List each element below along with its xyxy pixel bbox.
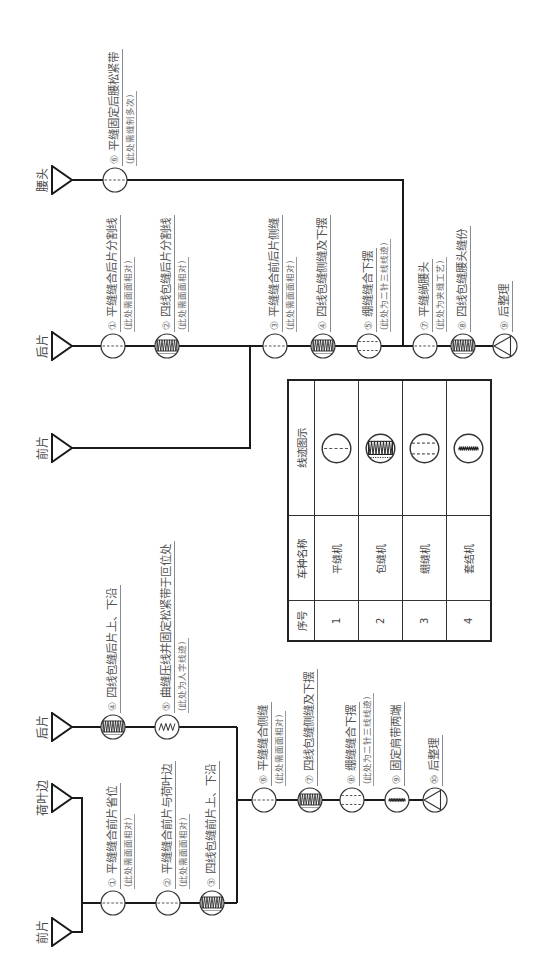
overlock-icon — [297, 787, 323, 813]
legend-header-row: 序号 车种名称 线迹图示 — [288, 380, 315, 641]
step-note: (此处为夹缝工艺) — [435, 257, 447, 332]
legend-stitch-cell — [315, 380, 359, 516]
step-text: 四线包缝腰头缝份 — [455, 229, 469, 317]
step-text: 后整理 — [427, 738, 441, 771]
legend-row: 4 套结机 — [447, 380, 492, 641]
step-title: ⑦四线包缝侧缝及下摆 — [302, 669, 318, 786]
step-number: ⑥ — [257, 775, 269, 784]
step-text: 平缝缝合前片省位 — [105, 786, 119, 874]
step-title: ⑥平缝固定后腰松紧带 — [107, 49, 123, 166]
overlock-icon — [199, 890, 225, 916]
step-note: (此处为人字线迹) — [177, 638, 189, 713]
step-title: ⑧绷缝缝合下摆 — [344, 702, 360, 786]
step-title: ⑨后整理 — [497, 281, 513, 332]
step-number: ④ — [316, 321, 328, 330]
step-title: ⑤曲缝压线并固定松紧带于叵位处 — [159, 541, 175, 713]
step-text: 四线包缝侧缝及下摆 — [315, 218, 329, 317]
overlock-icon — [365, 433, 396, 464]
step-title: ③四线包缝前片上、下沿 — [204, 761, 220, 889]
step-note: (此处为二针三线线迹) — [379, 239, 391, 332]
input-label-back-piece: 后片 — [35, 316, 51, 376]
step-label: ⑥平缝固定后腰松紧带 (此处需缝制多次) — [107, 49, 137, 166]
step-number: ⑨ — [390, 775, 402, 784]
finishing-icon — [422, 787, 448, 813]
step-number: ② — [160, 321, 172, 330]
step-note: (此处需面面相对) — [177, 257, 189, 332]
step-number: ④ — [106, 702, 118, 711]
step-title: ④四线包缝侧缝及下摆 — [315, 215, 331, 332]
step-number: ② — [161, 878, 173, 887]
step-text: 平缝固定后腰松紧带 — [107, 52, 121, 151]
bartack-icon — [453, 433, 484, 464]
coverstitch-icon — [339, 787, 365, 813]
step-title: ⑥平缝缝合侧缝 — [256, 702, 272, 786]
step-number: ⑧ — [456, 321, 468, 330]
step-number: ⑩ — [428, 775, 440, 784]
step-note: (此处需面面相对) — [123, 257, 135, 332]
step-label: ⑦平缝绱腰头 (此处为夹缝工艺) — [417, 257, 447, 332]
legend-header-machine: 车种名称 — [288, 516, 315, 601]
step-title: ⑩后整理 — [427, 735, 443, 786]
legend-row: 2 包缝机 — [359, 380, 403, 641]
step-label: ⑥平缝缝合侧缝 (此处需面面相对) — [256, 702, 286, 786]
step-number: ⑦ — [418, 321, 430, 330]
lockstitch-icon — [412, 333, 438, 359]
right-front-feed — [72, 346, 250, 448]
step-number: ① — [106, 321, 118, 330]
step-number: ① — [106, 878, 118, 887]
step-note: (此处需面面相对) — [123, 814, 135, 889]
lockstitch-icon — [321, 433, 352, 464]
step-label: ②四线包缝后片分割线 (此处需面面相对) — [159, 215, 189, 332]
input-label-waistband: 腰头 — [35, 150, 51, 210]
step-note: (此处需面面相对) — [285, 257, 297, 332]
lockstitch-icon — [155, 890, 181, 916]
step-label: ⑧绷缝缝合下摆 (此处为二针三线线迹) — [344, 693, 374, 786]
step-title: ②四线包缝后片分割线 — [159, 215, 175, 332]
input-triangle-icon — [51, 165, 73, 195]
step-label: ④四线包缝后片上、下沿 — [105, 585, 121, 713]
step-label: ③平缝缝合前后片侧缝 (此处需面面相对) — [267, 215, 297, 332]
input-triangle-icon — [51, 331, 73, 361]
step-title: ②平缝缝合前片与荷叶边 — [160, 761, 176, 889]
step-text: 曲缝压线并固定松紧带于叵位处 — [159, 544, 173, 698]
input-triangle-icon — [51, 712, 73, 742]
overlock-icon — [450, 333, 476, 359]
finishing-icon — [492, 333, 518, 359]
legend-stitch-cell — [447, 380, 492, 516]
step-number: ⑨ — [498, 321, 510, 330]
legend-number: 3 — [403, 601, 447, 641]
legend-row: 3 绷缝机 — [403, 380, 447, 641]
input-label-back-piece: 后片 — [35, 697, 51, 757]
step-number: ⑥ — [108, 155, 120, 164]
step-text: 四线包缝后片分割线 — [159, 218, 173, 317]
overlock-icon — [310, 333, 336, 359]
step-label: ②平缝缝合前片与荷叶边 (此处需面面相对) — [160, 761, 190, 889]
legend-row: 1 平缝机 — [315, 380, 359, 641]
input-label-front-piece: 前片 — [35, 902, 51, 957]
zigzag-stitch-icon — [154, 714, 180, 740]
lockstitch-icon — [100, 890, 126, 916]
overlock-icon — [100, 714, 126, 740]
step-label: ③四线包缝前片上、下沿 — [204, 761, 220, 889]
step-number: ⑤ — [160, 702, 172, 711]
step-label: ⑤曲缝压线并固定松紧带于叵位处 (此处为人字线迹) — [159, 541, 189, 713]
step-number: ③ — [205, 878, 217, 887]
step-text: 绷缝缝合下摆 — [361, 251, 375, 317]
input-label-front-piece: 前片 — [35, 418, 51, 478]
step-note: (此处需缝制多次) — [125, 91, 137, 166]
step-text: 后整理 — [497, 284, 511, 317]
step-text: 平缝缝合侧缝 — [256, 705, 270, 771]
step-title: ⑤绷缝缝合下摆 — [361, 248, 377, 332]
step-text: 绷缝缝合下摆 — [344, 705, 358, 771]
legend-machine: 包缝机 — [359, 516, 403, 601]
legend-number: 1 — [315, 601, 359, 641]
step-text: 四线包缝侧缝及下摆 — [302, 672, 316, 771]
step-note: (此处需面面相对) — [274, 711, 286, 786]
step-title: ⑦平缝绱腰头 — [417, 259, 433, 332]
step-label: ⑤绷缝缝合下摆 (此处为二针三线线迹) — [361, 239, 391, 332]
step-title: ③平缝缝合前后片侧缝 — [267, 215, 283, 332]
left-input-bus — [72, 798, 82, 932]
legend-number: 2 — [359, 601, 403, 641]
legend-stitch-cell — [359, 380, 403, 516]
step-label: ⑧四线包缝腰头缝份 — [455, 226, 471, 332]
